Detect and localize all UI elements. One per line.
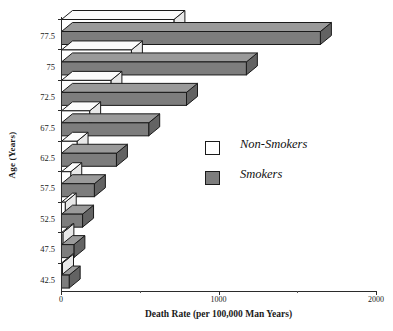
y-axis-tick-label: 62.5 (14, 153, 55, 163)
y-axis-tick (58, 49, 62, 50)
y-axis-tick-label: 72.5 (14, 92, 55, 102)
x-axis-title: Death Rate (per 100,000 Man Years) (61, 309, 376, 319)
x-axis-tick-label: 2000 (356, 295, 393, 304)
x-axis-minor-tick (140, 291, 141, 293)
gray-square-icon (205, 171, 220, 185)
y-axis-tick (58, 202, 62, 203)
chart-legend: Non-Smokers Smokers (205, 137, 355, 197)
y-axis-tick-label: 42.5 (14, 275, 55, 285)
x-axis-tick-label: 0 (41, 295, 81, 304)
y-axis-tick (58, 110, 62, 111)
legend-item-smokers: Smokers (205, 167, 355, 197)
x-axis-minor-tick (297, 291, 298, 293)
legend-label-smokers: Smokers (240, 167, 282, 182)
x-axis-tick-label: 1000 (199, 295, 239, 304)
legend-label-non-smokers: Non-Smokers (240, 137, 307, 152)
y-axis-tick-label: 47.5 (14, 244, 55, 254)
y-axis-tick-label: 77.5 (14, 31, 55, 41)
y-axis-tick-label: 75 (14, 62, 55, 72)
y-axis-tick (58, 232, 62, 233)
white-square-icon (205, 141, 220, 155)
y-axis-tick (58, 141, 62, 142)
y-axis-tick-label: 57.5 (14, 183, 55, 193)
y-axis-tick-label: 52.5 (14, 214, 55, 224)
y-axis-tick (58, 19, 62, 20)
y-axis-line (61, 17, 62, 291)
chart-container: 010002000 77.57572.567.562.557.552.547.5… (0, 0, 393, 331)
y-axis-tick-label: 67.5 (14, 123, 55, 133)
legend-item-non-smokers: Non-Smokers (205, 137, 355, 167)
y-axis-tick (58, 171, 62, 172)
y-axis-tick (58, 80, 62, 81)
y-axis-title: Age (Years) (7, 105, 17, 205)
y-axis-tick (58, 263, 62, 264)
